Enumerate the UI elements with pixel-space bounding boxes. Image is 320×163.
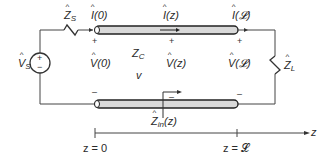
plus-sign-z: +: [169, 37, 174, 46]
current-arrow-icon: [89, 28, 93, 32]
plus-sign-zero: +: [92, 37, 97, 46]
source-impedance-label: ZS: [64, 10, 76, 23]
load-current-arrow-icon: [244, 28, 248, 32]
velocity-label: v: [136, 70, 142, 81]
bottom-conductor: [95, 100, 238, 108]
input-impedance-arrow-icon: [177, 90, 182, 94]
axis-end-label: z = 𝓛: [223, 143, 249, 154]
transmission-line-diagram: VS + − ZS I(0) I(z) I(𝓛) + + + ZC v V(0)…: [0, 0, 320, 163]
circuit-drawing: [0, 0, 320, 163]
bottom-conductor-end: [95, 101, 100, 108]
voltage-at-length-label: V(𝓛): [228, 58, 251, 69]
plus-sign-length: +: [237, 37, 242, 46]
load-impedance-label: ZL: [284, 60, 295, 73]
source-impedance-resistor-icon: [64, 25, 78, 35]
minus-sign-length: –: [237, 90, 242, 99]
voltage-at-zero-label: V(0): [90, 58, 111, 69]
minus-sign-z: –: [169, 93, 174, 102]
voltage-at-z-label: V(z): [166, 58, 186, 69]
top-conductor-end: [95, 27, 100, 34]
current-at-length-label: I(𝓛): [232, 10, 250, 21]
axis-start-label: z = 0: [83, 143, 107, 154]
characteristic-impedance-label: ZC: [132, 48, 145, 61]
input-impedance-label: Zin(z): [151, 116, 177, 129]
source-minus-sign: −: [37, 63, 42, 72]
z-axis-arrow-icon: [304, 131, 310, 135]
source-voltage-label: VS: [18, 58, 31, 71]
current-at-z-label: I(z): [163, 10, 179, 21]
load-impedance-resistor-icon: [270, 56, 280, 74]
current-at-zero-label: I(0): [91, 10, 108, 21]
axis-variable-label: z: [311, 127, 317, 138]
minus-sign-zero: –: [92, 88, 97, 97]
